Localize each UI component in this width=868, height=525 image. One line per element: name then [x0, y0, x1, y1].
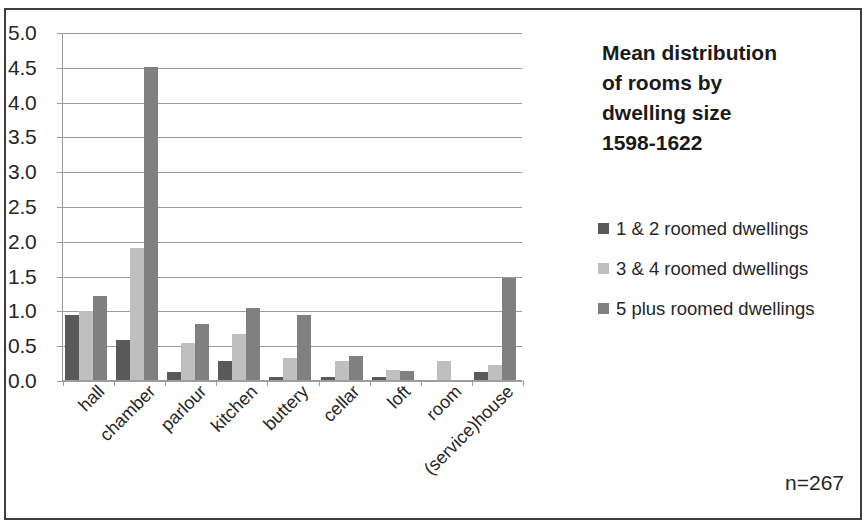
bar: [474, 372, 488, 380]
y-axis-tick-label: 4.0: [8, 92, 56, 113]
bar: [246, 308, 260, 380]
bar: [488, 365, 502, 380]
y-axis-tick-label: 1.5: [8, 266, 56, 287]
bar: [116, 340, 130, 380]
x-axis-tick-label: room: [423, 382, 465, 424]
y-axis-tick-label: 3.5: [8, 126, 56, 147]
bar: [349, 356, 363, 380]
x-axis-tick-label: parlour: [157, 382, 210, 435]
bar-group: [63, 33, 114, 380]
legend-item-label: 3 & 4 roomed dwellings: [616, 259, 808, 278]
chart-title-line: dwelling size: [602, 98, 860, 128]
x-axis-tick-label: cellar: [320, 382, 364, 426]
sample-size-annotation: n=267: [785, 471, 844, 495]
bar-group: [421, 33, 472, 380]
bar: [400, 371, 414, 380]
y-axis-tick-label: 2.0: [8, 231, 56, 252]
legend-item[interactable]: 3 & 4 roomed dwellings: [598, 248, 866, 288]
x-axis-tick-label: hall: [75, 382, 108, 415]
bar: [218, 361, 232, 380]
bar: [93, 296, 107, 380]
bar-chart: 5.04.54.03.53.02.52.01.51.00.50.0 hallch…: [0, 0, 575, 525]
legend-item-label: 1 & 2 roomed dwellings: [616, 219, 808, 238]
y-axis-tick-label: 1.0: [8, 300, 56, 321]
chart-page: 5.04.54.03.53.02.52.01.51.00.50.0 hallch…: [0, 0, 868, 525]
legend-item-label: 5 plus roomed dwellings: [616, 299, 814, 318]
legend-item[interactable]: 1 & 2 roomed dwellings: [598, 208, 866, 248]
bar: [372, 377, 386, 380]
x-axis-tick-labels: hallchamberparlourkitchenbutterycellarlo…: [62, 382, 532, 512]
bar-group: [472, 33, 523, 380]
bar: [79, 311, 93, 380]
y-axis-tick-label: 4.5: [8, 57, 56, 78]
legend-swatch-icon: [598, 223, 609, 234]
bar: [65, 315, 79, 380]
bar: [502, 278, 516, 380]
y-axis-tick-label: 5.0: [8, 22, 56, 43]
legend-swatch-icon: [598, 263, 609, 274]
x-axis-tick-label: buttery: [260, 382, 312, 434]
bar: [195, 324, 209, 380]
bar: [321, 377, 335, 380]
bar: [386, 370, 400, 380]
bar-group: [114, 33, 165, 380]
bar-group: [319, 33, 370, 380]
chart-title: Mean distributionof rooms bydwelling siz…: [602, 38, 860, 158]
x-axis-tick-label: chamber: [96, 382, 159, 445]
y-axis-tick-label: 0.5: [8, 335, 56, 356]
chart-side-panel: Mean distributionof rooms bydwelling siz…: [588, 0, 868, 525]
bar: [130, 248, 144, 380]
bar: [167, 372, 181, 380]
bar-group: [370, 33, 421, 380]
chart-legend: 1 & 2 roomed dwellings3 & 4 roomed dwell…: [598, 208, 866, 328]
bar-group: [267, 33, 318, 380]
bar: [269, 377, 283, 380]
y-axis-tick-labels: 5.04.54.03.53.02.52.01.51.00.50.0: [8, 23, 56, 381]
bar: [335, 361, 349, 380]
legend-item[interactable]: 5 plus roomed dwellings: [598, 288, 866, 328]
legend-swatch-icon: [598, 303, 609, 314]
bar: [232, 334, 246, 380]
bar: [181, 343, 195, 380]
bar-group: [216, 33, 267, 380]
y-axis-tick-label: 0.0: [8, 370, 56, 391]
x-axis-tick-label: loft: [384, 382, 414, 412]
bar: [283, 358, 297, 380]
y-axis-tick-label: 2.5: [8, 196, 56, 217]
bar: [297, 315, 311, 380]
bar-group: [165, 33, 216, 380]
x-axis-tick-label: kitchen: [208, 382, 262, 436]
bar: [437, 361, 451, 380]
y-axis-tick-label: 3.0: [8, 161, 56, 182]
chart-title-line: Mean distribution: [602, 38, 860, 68]
plot-area: [62, 33, 522, 381]
chart-title-line: 1598-1622: [602, 128, 860, 158]
bar: [144, 67, 158, 380]
chart-title-line: of rooms by: [602, 68, 860, 98]
